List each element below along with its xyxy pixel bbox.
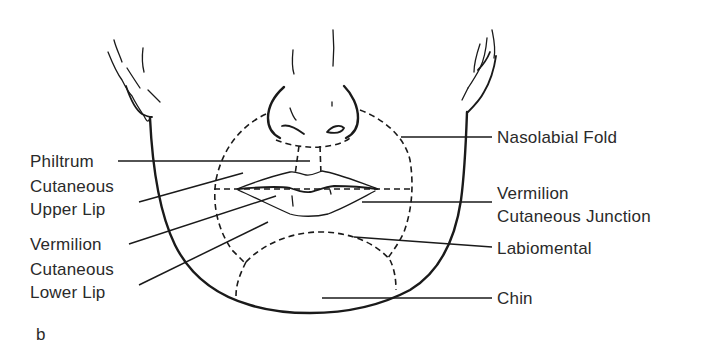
lip-anatomy-diagram: Philtrum CutaneousUpper Lip Vermilion Cu… <box>0 0 712 348</box>
lips-drawing <box>237 171 378 216</box>
label-labiomental: Labiomental <box>497 239 592 258</box>
label-chin: Chin <box>497 289 533 308</box>
left-leader-lines <box>118 161 310 285</box>
label-cutaneous-upper-lip: CutaneousUpper Lip <box>30 177 114 219</box>
panel-letter: b <box>36 325 45 344</box>
jaw-outline <box>150 112 467 313</box>
nose-drawing <box>268 30 358 138</box>
right-ear-drawing <box>462 30 496 112</box>
label-vermilion: Vermilion <box>30 235 102 254</box>
label-philtrum: Philtrum <box>30 152 94 171</box>
right-leader-lines <box>322 137 492 298</box>
label-cutaneous-lower-lip: CutaneousLower Lip <box>30 260 114 302</box>
label-nasolabial-fold: Nasolabial Fold <box>497 128 617 147</box>
labiomental-dashed-boundary <box>246 232 390 262</box>
label-vermilion-cutaneous-junction: VermilionCutaneous Junction <box>497 184 651 226</box>
left-ear-drawing <box>108 40 160 121</box>
